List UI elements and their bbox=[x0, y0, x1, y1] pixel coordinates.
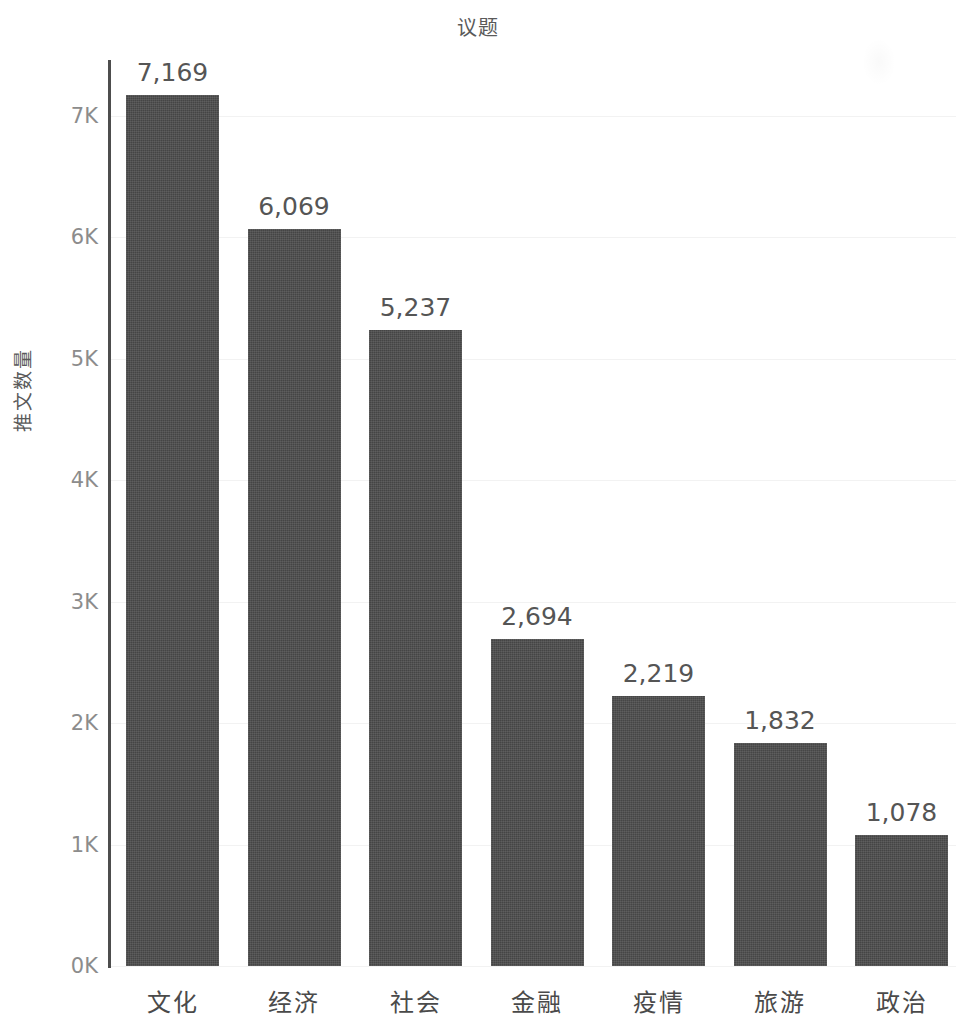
y-axis-tick-label: 6K bbox=[34, 225, 98, 249]
bar-value-label: 7,169 bbox=[101, 58, 244, 87]
bar[interactable] bbox=[734, 743, 827, 966]
bar[interactable] bbox=[855, 835, 948, 966]
y-axis-tick-label: 5K bbox=[34, 347, 98, 371]
bar-value-label: 2,219 bbox=[587, 659, 730, 688]
bar[interactable] bbox=[612, 696, 705, 966]
bar-value-label: 6,069 bbox=[223, 192, 366, 221]
bar[interactable] bbox=[369, 330, 462, 966]
gridline bbox=[111, 116, 956, 117]
bar[interactable] bbox=[126, 95, 219, 966]
y-axis-tick-label: 4K bbox=[34, 468, 98, 492]
gridline bbox=[111, 480, 956, 481]
gridline bbox=[111, 359, 956, 360]
x-axis-category-label: 政治 bbox=[830, 983, 956, 1018]
y-axis-tick-label: 3K bbox=[34, 590, 98, 614]
y-axis-tick-label: 2K bbox=[34, 711, 98, 735]
gridline bbox=[111, 237, 956, 238]
bar-chart: 议题 推文数量 0K1K2K3K4K5K6K7K 7,1696,0695,237… bbox=[0, 0, 956, 1020]
gridline bbox=[111, 966, 956, 967]
bar-value-label: 1,832 bbox=[709, 706, 852, 735]
bar[interactable] bbox=[248, 229, 341, 966]
y-axis-line bbox=[108, 60, 111, 968]
bar-value-label: 1,078 bbox=[830, 798, 956, 827]
bar-value-label: 2,694 bbox=[466, 602, 609, 631]
bar[interactable] bbox=[491, 639, 584, 966]
bar-value-label: 5,237 bbox=[344, 293, 487, 322]
y-axis-tick-label: 7K bbox=[34, 104, 98, 128]
y-axis-tick-label: 0K bbox=[34, 954, 98, 978]
chart-title: 议题 bbox=[0, 12, 956, 41]
y-axis-tick-label: 1K bbox=[34, 833, 98, 857]
scan-artifact bbox=[862, 38, 896, 86]
